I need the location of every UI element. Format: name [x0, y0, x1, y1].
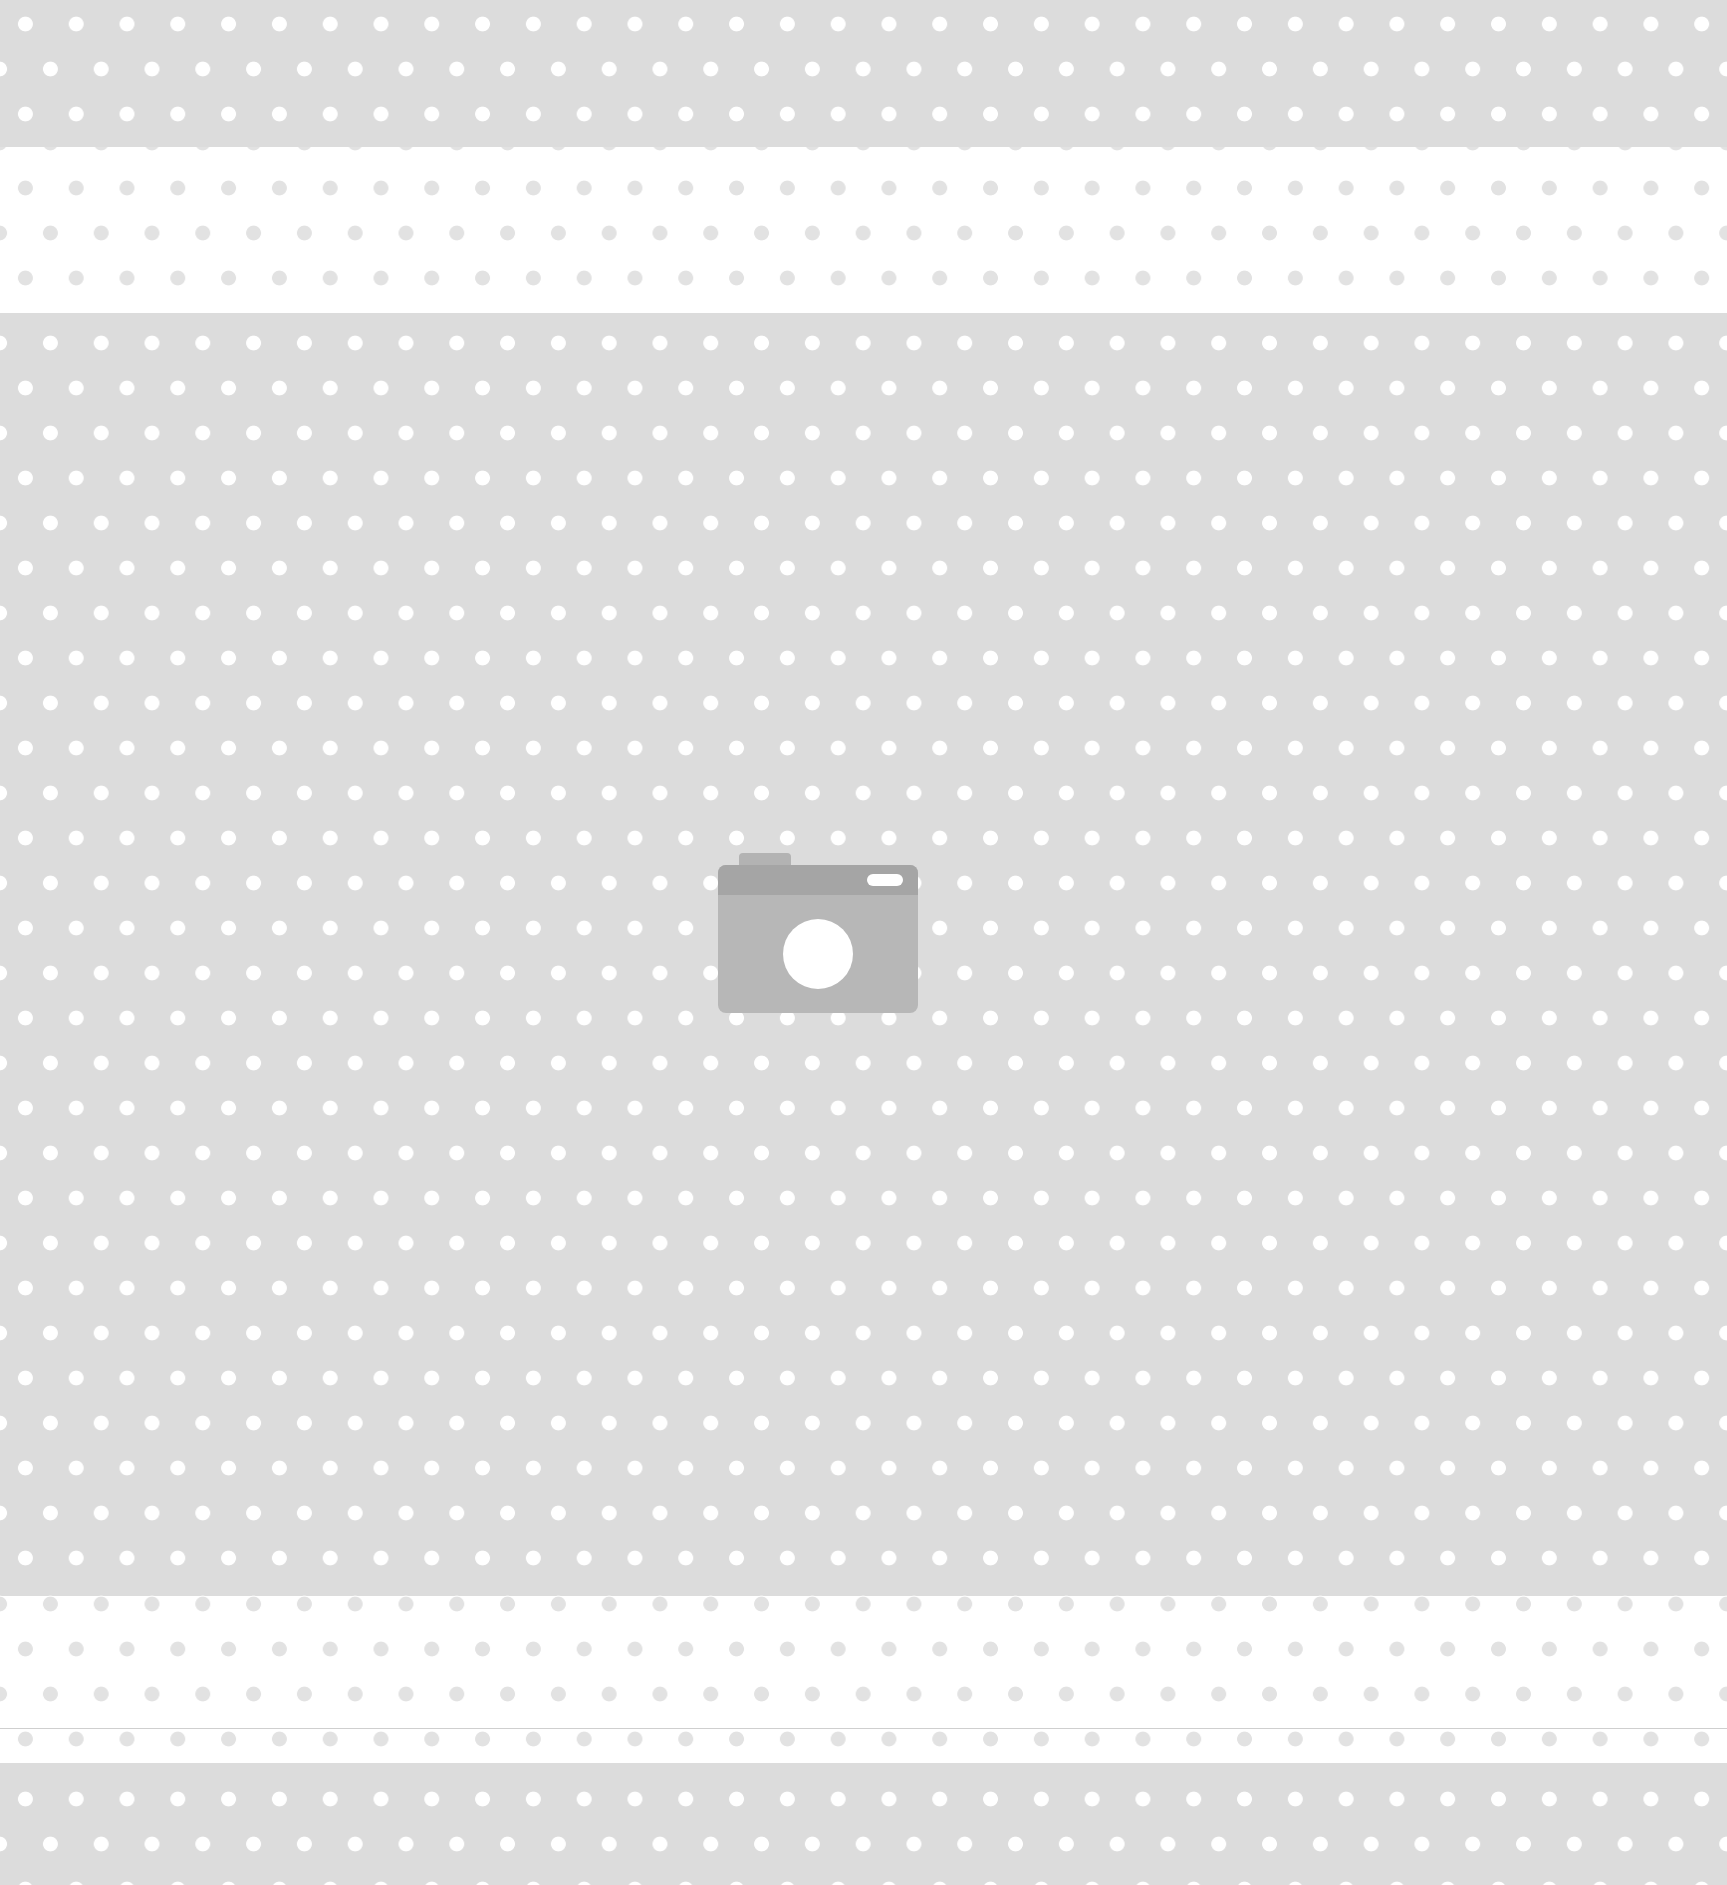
camera-flash-shape	[867, 874, 903, 886]
pattern-band-light-bottom	[0, 1596, 1727, 1763]
camera-lens-shape	[783, 919, 853, 989]
pattern-band-bottom	[0, 1763, 1727, 1885]
camera-body	[718, 865, 918, 1013]
pattern-band-top	[0, 0, 1727, 147]
divider-line	[0, 1728, 1727, 1729]
pattern-band-light-top	[0, 147, 1727, 313]
camera-icon	[718, 853, 918, 1013]
